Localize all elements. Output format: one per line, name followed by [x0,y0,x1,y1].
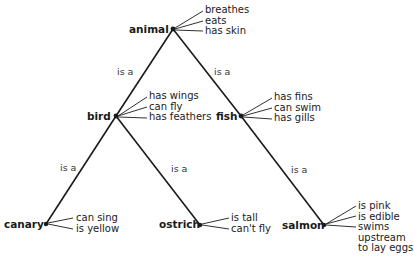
node-fish-label: fish [216,110,238,122]
property: can't fly [231,224,271,235]
node-dot-bird [114,114,119,119]
edge-salmon-fish [241,116,324,225]
property: has gills [274,113,321,124]
network-edges [0,0,414,261]
node-animal-label: animal [129,23,169,35]
salmon-properties: is pink is edible swims upstream to lay … [358,201,413,254]
property: has feathers [149,112,211,123]
animal-properties: breathes eats has skin [205,5,249,37]
property: has wings [149,91,211,102]
fish-properties: has fins can swim has gills [274,92,321,124]
property: has fins [274,92,321,103]
property: can sing [76,213,119,224]
node-dot-animal [171,27,176,32]
property: is yellow [76,224,119,235]
node-bird-label: bird [87,110,111,122]
property: swims [358,222,413,233]
edge-label-salmon-fish: is a [291,164,307,175]
node-canary-label: canary [4,218,44,230]
property: breathes [205,5,249,16]
edge-label-ostrich-bird: is a [171,163,187,174]
node-salmon-label: salmon [282,219,325,231]
edge-label-canary-bird: is a [60,162,76,173]
property: has skin [205,26,249,37]
node-dot-canary [44,222,48,226]
node-ostrich-label: ostrich [159,218,200,230]
property: is tall [231,213,271,224]
canary-properties: can sing is yellow [76,213,119,234]
node-dot-fish [239,114,244,119]
ostrich-properties: is tall can't fly [231,213,271,234]
edge-canary-bird [46,116,116,224]
property: to lay eggs [358,243,413,254]
property: is pink [358,201,413,212]
edge-label-bird-animal: is a [117,66,133,77]
edge-label-fish-animal: is a [214,66,230,77]
bird-properties: has wings can fly has feathers [149,91,211,123]
